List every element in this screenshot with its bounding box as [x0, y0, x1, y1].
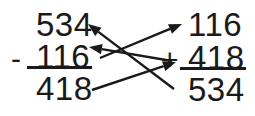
subtraction-difference: 418	[36, 72, 93, 105]
subtraction-minuend: 534	[36, 8, 93, 41]
arrow-subtrahend-to-addend-top-shaft	[100, 29, 170, 58]
addition-addend-top: 116	[188, 8, 242, 41]
plus-operator: +	[161, 45, 179, 75]
subtraction-bar	[27, 66, 92, 69]
minus-operator: -	[11, 44, 21, 74]
addition-sum: 534	[188, 73, 245, 106]
arithmetic-check-figure: 534 - 116 418 116 + 418 534	[0, 0, 255, 116]
addition-bar	[180, 67, 246, 70]
arrow-subtrahend-to-addend-top-head	[168, 24, 182, 34]
arrow-difference-to-addend-bottom-shaft	[92, 66, 164, 90]
arrow-addend-bottom-to-subtrahend-head	[89, 44, 103, 54]
